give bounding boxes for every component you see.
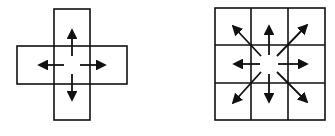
four-neighborhood-figure — [17, 9, 127, 120]
arrow-down-left-icon — [233, 72, 261, 103]
eight-neighborhood-figure — [215, 8, 325, 120]
diagram-canvas — [0, 0, 335, 136]
arrow-down-right-icon — [277, 72, 307, 102]
arrow-up-right-icon — [277, 25, 307, 56]
grid-border — [215, 8, 325, 120]
arrow-up-left-icon — [233, 26, 261, 56]
